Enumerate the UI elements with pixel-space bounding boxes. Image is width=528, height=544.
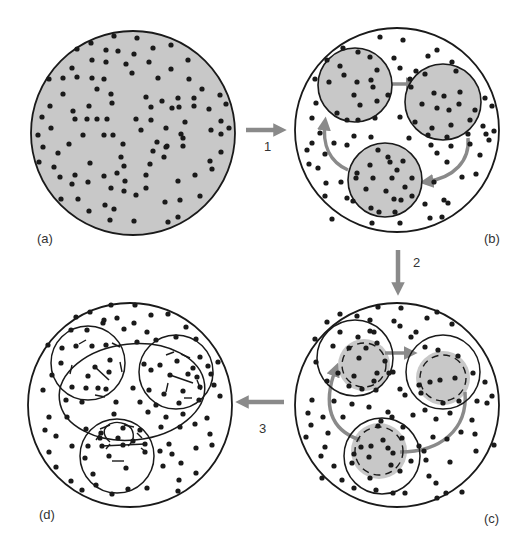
particle-dot (355, 117, 360, 122)
particle-dot (68, 327, 73, 332)
particle-dot (207, 158, 212, 163)
particle-dot (383, 188, 388, 193)
particle-dot (368, 443, 373, 448)
particle-dot (46, 449, 51, 454)
particle-dot (166, 441, 171, 446)
particle-dot (46, 76, 51, 81)
particle-dot (180, 143, 185, 148)
particle-dot (174, 358, 179, 363)
particle-dot (472, 107, 477, 112)
particle-dot (366, 404, 371, 409)
particle-dot (344, 117, 349, 122)
particle-dot (370, 84, 375, 89)
particle-dot (107, 217, 112, 222)
particle-dot (86, 103, 91, 108)
particle-dot (208, 371, 213, 376)
particle-dot (367, 54, 372, 59)
particle-dot (459, 489, 464, 494)
particle-dot (160, 463, 165, 468)
particle-dot (115, 435, 120, 440)
particle-dot (94, 116, 99, 121)
particle-dot (308, 422, 313, 427)
particle-dot (69, 384, 74, 389)
particle-dot (109, 100, 114, 105)
particle-dot (101, 76, 106, 81)
particle-dot (374, 98, 379, 103)
particle-dot (182, 119, 187, 124)
particle-dot (60, 75, 65, 80)
particle-dot (134, 35, 139, 40)
particle-dot (459, 174, 464, 179)
particle-dot (346, 345, 351, 350)
particle-dot (416, 382, 421, 387)
particle-dot (146, 59, 151, 64)
particle-dot (148, 104, 153, 109)
particle-dot (95, 385, 100, 390)
particle-dot (340, 45, 345, 50)
particle-dot (351, 133, 356, 138)
particle-dot (375, 304, 380, 309)
particle-dot (421, 448, 426, 453)
particle-dot (154, 139, 159, 144)
particle-dot (440, 400, 445, 405)
particle-dot (469, 417, 474, 422)
particle-dot (444, 159, 449, 164)
particle-dot (83, 426, 88, 431)
particle-dot (175, 95, 180, 100)
particle-dot (143, 94, 148, 99)
particle-dot (150, 148, 155, 153)
particle-dot (146, 387, 151, 392)
particle-dot (177, 424, 182, 429)
particle-dot (326, 79, 331, 84)
particle-dot (443, 490, 448, 495)
particle-dot (480, 123, 485, 128)
particle-dot (368, 134, 373, 139)
particle-dot (367, 475, 372, 480)
particle-dot (137, 427, 142, 432)
particle-dot (73, 314, 78, 319)
particle-dot (367, 328, 372, 333)
particle-dot (491, 442, 496, 447)
particle-dot (418, 390, 423, 395)
particle-dot (197, 384, 202, 389)
particle-dot (351, 373, 356, 378)
particle-dot (331, 463, 336, 468)
particle-dot (103, 59, 108, 64)
particle-dot (165, 219, 170, 224)
particle-dot (491, 128, 496, 133)
particle-dot (211, 382, 216, 387)
particle-dot (223, 101, 228, 106)
particle-dot (153, 402, 158, 407)
particle-dot (363, 186, 368, 191)
particle-dot (449, 59, 454, 64)
particle-dot (402, 392, 407, 397)
particle-dot (205, 363, 210, 368)
particle-dot (51, 164, 56, 169)
particle-dot (369, 220, 374, 225)
particle-dot (40, 387, 45, 392)
particle-dot (85, 373, 90, 378)
particle-dot (88, 40, 93, 45)
particle-dot (312, 336, 317, 341)
particle-dot (79, 399, 84, 404)
particle-dot (412, 119, 417, 124)
particle-dot (169, 451, 174, 456)
particle-dot (318, 453, 323, 458)
particle-dot (59, 345, 64, 350)
particle-dot (416, 443, 421, 448)
cluster-process-diagram (0, 0, 528, 544)
particle-dot (388, 462, 393, 467)
particle-dot (444, 436, 449, 441)
particle-dot (419, 101, 424, 106)
particle-dot (80, 132, 85, 137)
particle-dot (356, 355, 361, 360)
particle-dot (58, 360, 63, 365)
particle-dot (191, 95, 196, 100)
particle-dot (148, 117, 153, 122)
particle-dot (72, 172, 77, 177)
particle-dot (337, 63, 342, 68)
particle-dot (133, 116, 138, 121)
particle-dot (100, 320, 105, 325)
particle-dot (145, 409, 150, 414)
particle-dot (385, 154, 390, 159)
